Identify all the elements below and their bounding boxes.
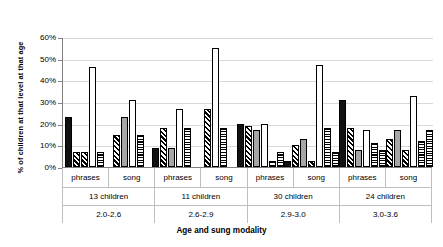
bar bbox=[184, 128, 191, 167]
bar bbox=[73, 152, 80, 167]
bar-subgroup-song bbox=[386, 37, 433, 167]
bar-chart: % of children at that level at that age … bbox=[0, 0, 443, 247]
age-range-label: 2.9-3.0 bbox=[248, 205, 339, 223]
age-range-label: 2.0-2.6 bbox=[63, 205, 154, 223]
y-axis-tick-label: 20% bbox=[22, 121, 56, 129]
children-count-label: 11 children bbox=[155, 187, 246, 205]
bar-subgroup-song bbox=[194, 37, 238, 167]
modality-label-phrases: phrases bbox=[155, 168, 201, 187]
children-count-label: 24 children bbox=[340, 187, 431, 205]
category-axis: phrasessong13 children2.0-2.6phrasessong… bbox=[62, 168, 432, 223]
bar bbox=[212, 48, 219, 167]
y-axis-tick-label: 30% bbox=[22, 99, 56, 107]
plot-area bbox=[62, 38, 432, 168]
bar bbox=[410, 96, 417, 168]
bar bbox=[152, 148, 159, 168]
age-group-column: phrasessong11 children2.6-2.9 bbox=[155, 168, 247, 223]
bar bbox=[332, 152, 339, 167]
bar bbox=[426, 130, 433, 167]
modality-label-song: song bbox=[294, 168, 339, 187]
age-group-column: phrasessong30 children2.9-3.0 bbox=[248, 168, 340, 223]
bar-subgroup-song bbox=[284, 37, 339, 167]
bar bbox=[97, 152, 104, 167]
modality-label-song: song bbox=[109, 168, 154, 187]
x-axis-title: Age and sung modality bbox=[0, 226, 443, 235]
bar bbox=[65, 117, 72, 167]
bar bbox=[324, 128, 331, 167]
modality-row: phrasessong bbox=[340, 168, 431, 187]
bar bbox=[269, 161, 276, 168]
bar bbox=[168, 148, 175, 168]
bar bbox=[113, 135, 120, 168]
bar-subgroup-phrases bbox=[63, 37, 107, 167]
bar bbox=[308, 161, 315, 168]
bar bbox=[237, 124, 244, 167]
bar-subgroup-phrases bbox=[339, 37, 386, 167]
bar bbox=[316, 65, 323, 167]
modality-label-song: song bbox=[201, 168, 246, 187]
modality-label-phrases: phrases bbox=[340, 168, 386, 187]
bar-series-container bbox=[63, 37, 433, 167]
age-group-column: phrasessong24 children3.0-3.6 bbox=[340, 168, 432, 223]
bar-subgroup-phrases bbox=[237, 37, 284, 167]
bar bbox=[363, 130, 370, 167]
bar bbox=[386, 139, 393, 167]
age-group-column: phrasessong13 children2.0-2.6 bbox=[62, 168, 155, 223]
modality-row: phrasessong bbox=[63, 168, 154, 187]
y-axis-tick-label: 40% bbox=[22, 77, 56, 85]
bar bbox=[355, 150, 362, 167]
bar bbox=[245, 126, 252, 167]
bar bbox=[204, 109, 211, 168]
modality-row: phrasessong bbox=[248, 168, 339, 187]
bar bbox=[261, 124, 268, 167]
bar bbox=[81, 152, 88, 167]
bar bbox=[371, 143, 378, 167]
y-axis-tick-label: 50% bbox=[22, 56, 56, 64]
bar bbox=[394, 130, 401, 167]
children-count-label: 30 children bbox=[248, 187, 339, 205]
bar bbox=[220, 128, 227, 167]
bar bbox=[176, 109, 183, 168]
age-range-label: 2.6-2.9 bbox=[155, 205, 246, 223]
bar bbox=[160, 128, 167, 167]
modality-label-song: song bbox=[386, 168, 431, 187]
modality-label-phrases: phrases bbox=[248, 168, 294, 187]
modality-label-phrases: phrases bbox=[63, 168, 109, 187]
bar bbox=[379, 150, 386, 167]
age-range-label: 3.0-3.6 bbox=[340, 205, 431, 223]
bar bbox=[339, 100, 346, 167]
y-axis-tick-label: 10% bbox=[22, 142, 56, 150]
bar bbox=[284, 161, 291, 168]
modality-row: phrasessong bbox=[155, 168, 246, 187]
bar-subgroup-song bbox=[107, 37, 151, 167]
bar bbox=[129, 100, 136, 167]
bar bbox=[347, 128, 354, 167]
bar bbox=[277, 152, 284, 167]
y-axis-tick-label: 0% bbox=[22, 164, 56, 172]
y-axis-tick-label: 60% bbox=[22, 34, 56, 42]
bar bbox=[418, 141, 425, 167]
bar bbox=[89, 67, 96, 167]
bar bbox=[402, 150, 409, 167]
bar bbox=[121, 117, 128, 167]
bar bbox=[253, 130, 260, 167]
children-count-label: 13 children bbox=[63, 187, 154, 205]
bar bbox=[137, 135, 144, 168]
bar-subgroup-phrases bbox=[150, 37, 194, 167]
bar bbox=[292, 145, 299, 167]
bar bbox=[300, 139, 307, 167]
